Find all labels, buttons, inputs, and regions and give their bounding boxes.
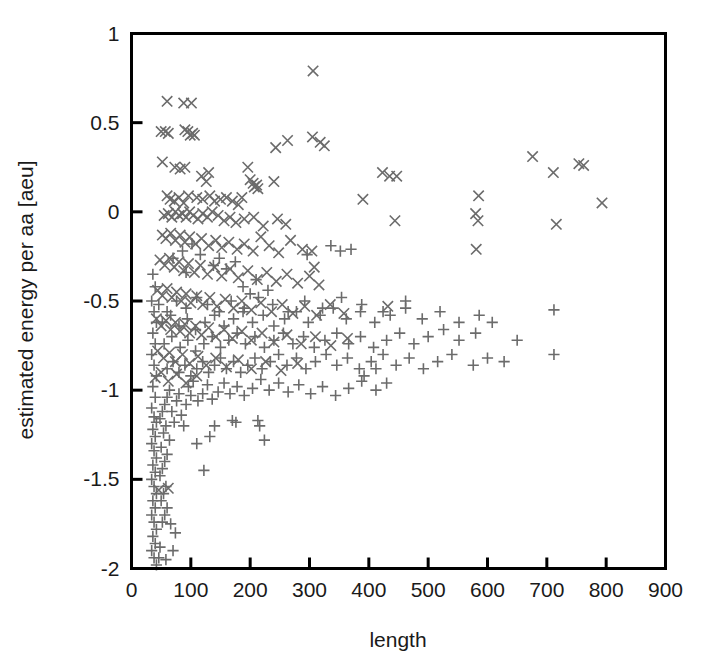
data-point-cross bbox=[551, 219, 561, 229]
data-point-cross bbox=[285, 235, 295, 245]
data-point-cross bbox=[209, 262, 219, 272]
data-point-plus bbox=[215, 342, 226, 353]
data-point-plus bbox=[218, 320, 229, 331]
data-point-plus bbox=[273, 377, 284, 388]
data-point-plus bbox=[482, 352, 493, 363]
data-point-plus bbox=[309, 342, 320, 353]
data-point-plus bbox=[305, 388, 316, 399]
data-point-plus bbox=[432, 356, 443, 367]
data-point-plus bbox=[278, 328, 289, 339]
data-point-plus bbox=[418, 363, 429, 374]
data-point-cross bbox=[163, 483, 173, 493]
data-point-plus bbox=[177, 245, 188, 256]
data-point-plus bbox=[331, 328, 342, 339]
data-point-cross bbox=[292, 278, 302, 288]
data-point-plus bbox=[157, 317, 168, 328]
data-point-plus bbox=[336, 292, 347, 303]
data-point-plus bbox=[258, 310, 269, 321]
data-point-plus bbox=[512, 335, 523, 346]
data-point-plus bbox=[185, 370, 196, 381]
data-point-cross bbox=[246, 305, 256, 315]
x-tick-label: 200 bbox=[233, 578, 268, 601]
data-point-cross bbox=[239, 239, 249, 249]
x-tick-label: 300 bbox=[292, 578, 327, 601]
data-point-cross bbox=[248, 246, 258, 256]
data-point-plus bbox=[256, 363, 267, 374]
data-point-plus bbox=[370, 385, 381, 396]
data-point-plus bbox=[548, 349, 559, 360]
data-point-plus bbox=[300, 363, 311, 374]
data-point-plus bbox=[147, 269, 158, 280]
data-point-plus bbox=[221, 263, 232, 274]
data-point-plus bbox=[400, 295, 411, 306]
data-point-plus bbox=[335, 245, 346, 256]
data-point-plus bbox=[146, 402, 157, 413]
data-point-plus bbox=[423, 331, 434, 342]
data-point-plus bbox=[202, 379, 213, 390]
data-point-plus bbox=[207, 331, 218, 342]
y-tick-label: -1 bbox=[101, 378, 120, 401]
data-point-plus bbox=[223, 335, 234, 346]
data-point-plus bbox=[159, 509, 170, 520]
data-point-plus bbox=[273, 349, 284, 360]
data-point-cross bbox=[597, 198, 607, 208]
data-point-cross bbox=[216, 271, 226, 281]
data-point-plus bbox=[354, 363, 365, 374]
data-point-cross bbox=[233, 355, 243, 365]
data-point-cross bbox=[201, 176, 211, 186]
data-point-plus bbox=[198, 465, 209, 476]
data-point-cross bbox=[358, 194, 368, 204]
data-point-plus bbox=[167, 545, 178, 556]
y-tick-label: -1.5 bbox=[83, 467, 119, 490]
data-point-plus bbox=[265, 356, 276, 367]
data-point-cross bbox=[256, 298, 266, 308]
data-point-cross bbox=[228, 303, 238, 313]
data-point-cross bbox=[282, 135, 292, 145]
data-point-cross bbox=[203, 241, 213, 251]
y-axis-tick-labels: 10.50-0.5-1-1.5-2 bbox=[83, 22, 119, 580]
data-point-cross bbox=[339, 308, 349, 318]
data-point-cross bbox=[326, 340, 336, 350]
data-point-plus bbox=[255, 374, 266, 385]
data-point-plus bbox=[315, 310, 326, 321]
data-point-plus bbox=[268, 335, 279, 346]
data-point-cross bbox=[258, 221, 268, 231]
data-point-plus bbox=[487, 317, 498, 328]
data-point-plus bbox=[381, 377, 392, 388]
y-tick-label: 0 bbox=[108, 200, 120, 223]
data-point-plus bbox=[153, 552, 164, 563]
data-point-cross bbox=[157, 157, 167, 167]
data-point-plus bbox=[369, 317, 380, 328]
data-point-plus bbox=[330, 390, 341, 401]
data-point-plus bbox=[381, 335, 392, 346]
data-point-plus bbox=[239, 390, 250, 401]
data-point-plus bbox=[438, 324, 449, 335]
data-point-plus bbox=[417, 313, 428, 324]
y-tick-label: 0.5 bbox=[90, 111, 119, 134]
data-point-plus bbox=[310, 356, 321, 367]
data-point-plus bbox=[377, 349, 388, 360]
data-point-plus bbox=[358, 370, 369, 381]
data-point-cross bbox=[310, 331, 320, 341]
data-point-cross bbox=[219, 216, 229, 226]
data-point-plus bbox=[391, 360, 402, 371]
data-point-plus bbox=[146, 349, 157, 360]
data-point-plus bbox=[218, 377, 229, 388]
data-point-cross bbox=[319, 141, 329, 151]
x-tick-label: 0 bbox=[126, 578, 138, 601]
data-point-plus bbox=[345, 244, 356, 255]
data-point-plus bbox=[408, 338, 419, 349]
data-point-plus bbox=[162, 502, 173, 513]
scatter-plot-figure: 0100200300400500600700800900 10.50-0.5-1… bbox=[0, 0, 710, 668]
data-point-plus bbox=[470, 328, 481, 339]
x-axis-ticks bbox=[132, 558, 666, 569]
data-point-cross bbox=[184, 358, 194, 368]
data-point-cross bbox=[207, 207, 217, 217]
data-point-cross bbox=[527, 151, 537, 161]
data-point-plus bbox=[303, 317, 314, 328]
data-point-plus bbox=[204, 431, 215, 442]
data-point-plus bbox=[342, 352, 353, 363]
data-point-plus bbox=[202, 299, 213, 310]
data-point-cross bbox=[195, 260, 205, 270]
data-point-plus bbox=[207, 393, 218, 404]
